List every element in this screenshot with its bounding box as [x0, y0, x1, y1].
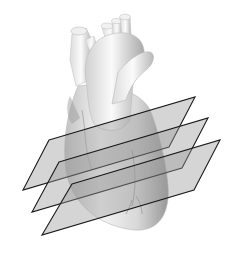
figure-canvas	[0, 0, 240, 257]
vessel-opening	[101, 23, 113, 29]
vessel-opening	[120, 14, 131, 20]
vessel-opening	[71, 27, 87, 35]
heart-slices-diagram	[0, 0, 240, 257]
